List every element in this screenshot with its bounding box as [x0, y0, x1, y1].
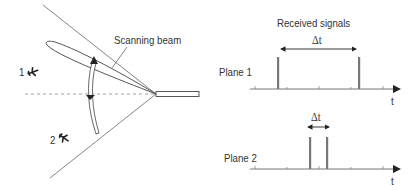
aircraft-1-label: 1	[19, 66, 24, 78]
plane-1-signal-plot	[250, 49, 401, 93]
aircraft-2-label: 2	[50, 134, 55, 146]
pulse-2a	[309, 137, 311, 169]
plane-1-label: Plane 1	[219, 66, 252, 78]
pulse-1a	[277, 57, 279, 89]
airplane-icon	[27, 67, 39, 78]
plane-2-label: Plane 2	[224, 152, 257, 164]
plane-1-delta-t-label: Δt	[312, 33, 322, 48]
antenna	[156, 92, 199, 97]
pulse-1b	[358, 57, 360, 89]
sector-boundaries	[43, 5, 156, 178]
pulse-2b	[326, 137, 328, 169]
scanning-beam-label: Scanning beam	[114, 34, 181, 46]
plane-1-t-axis-label: t	[391, 95, 394, 107]
t-axis-arrow-icon	[393, 165, 401, 173]
scanning-beam-lobe	[46, 41, 156, 94]
plane-2-signal-plot	[250, 127, 401, 173]
plane-2-delta-t-label: Δt	[311, 110, 321, 125]
t-axis-arrow-icon	[393, 85, 401, 93]
scan-arrow-down-icon	[86, 95, 95, 100]
airplane-icon	[58, 132, 71, 144]
received-signals-title: Received signals	[277, 17, 350, 29]
diagram-canvas	[0, 0, 420, 190]
plane-2-t-axis-label: t	[391, 175, 394, 187]
